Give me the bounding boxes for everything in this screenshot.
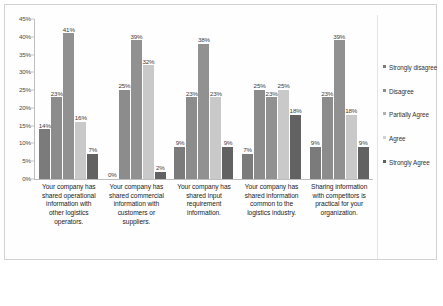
legend-label: Partially Agree — [389, 110, 429, 119]
legend-label: Disagree — [389, 87, 414, 96]
bar-value-label: 23% — [210, 91, 222, 97]
bar[interactable]: 7% — [242, 154, 253, 179]
x-axis-line — [34, 179, 373, 180]
bar-group: 7%25%23%25%18% — [238, 19, 306, 179]
bar-value-label: 23% — [321, 91, 333, 97]
bar[interactable]: 25% — [119, 90, 130, 179]
bar[interactable]: 25% — [254, 90, 265, 179]
legend-swatch-icon — [383, 65, 386, 68]
legend-label: Agree — [389, 134, 406, 143]
legend-divider — [377, 15, 378, 259]
bar-value-label: 23% — [186, 91, 198, 97]
bar[interactable]: 39% — [131, 40, 142, 179]
y-axis-tick-label: 0% — [22, 176, 31, 182]
bar-value-label: 25% — [278, 83, 290, 89]
y-axis-tick-label: 15% — [19, 123, 31, 129]
bar-value-label: 38% — [198, 37, 210, 43]
bar-value-label: 7% — [243, 147, 252, 153]
y-axis-tick-mark — [31, 107, 34, 108]
y-axis-tick-mark — [31, 125, 34, 126]
y-axis-tick-label: 10% — [19, 140, 31, 146]
bar[interactable]: 9% — [310, 147, 321, 179]
bar-group: 9%23%39%18%9% — [305, 19, 373, 179]
legend-swatch-icon — [383, 112, 386, 115]
bar-groups: 14%23%41%16%7%0%25%39%32%2%9%23%38%23%9%… — [35, 19, 373, 179]
y-axis-tick-label: 30% — [19, 69, 31, 75]
y-axis-tick-label: 20% — [19, 105, 31, 111]
bar-value-label: 14% — [39, 123, 51, 129]
bar-value-label: 25% — [254, 83, 266, 89]
bar-value-label: 39% — [333, 34, 345, 40]
y-axis-tick-mark — [31, 90, 34, 91]
legend-item[interactable]: Strongly Agree — [383, 158, 439, 167]
x-axis-category-labels: Your company has shared operational info… — [35, 183, 373, 227]
bar-value-label: 18% — [290, 108, 302, 114]
bar-value-label: 39% — [130, 34, 142, 40]
bar-value-label: 9% — [311, 140, 320, 146]
bar-value-label: 7% — [88, 147, 97, 153]
legend-item[interactable]: Disagree — [383, 87, 439, 96]
y-axis-tick-label: 25% — [19, 87, 31, 93]
legend-item[interactable]: Partially Agree — [383, 110, 439, 119]
chart-legend: Strongly disagreeDisagreePartially Agree… — [383, 63, 439, 181]
y-axis-tick-label: 45% — [19, 16, 31, 22]
bar-value-label: 23% — [266, 91, 278, 97]
y-axis-tick-mark — [31, 143, 34, 144]
bar-value-label: 16% — [75, 115, 87, 121]
legend-swatch-icon — [383, 89, 386, 92]
bar[interactable]: 9% — [358, 147, 369, 179]
bar[interactable]: 23% — [186, 97, 197, 179]
legend-label: Strongly Agree — [389, 158, 430, 167]
y-axis-tick-mark — [31, 161, 34, 162]
bar-group: 14%23%41%16%7% — [35, 19, 103, 179]
bar[interactable]: 14% — [39, 129, 50, 179]
bar[interactable]: 38% — [198, 44, 209, 179]
legend-item[interactable]: Agree — [383, 134, 439, 143]
bar[interactable]: 18% — [290, 115, 301, 179]
bar-value-label: 18% — [345, 108, 357, 114]
y-axis-tick-mark — [31, 19, 34, 20]
bar[interactable]: 23% — [51, 97, 62, 179]
bar[interactable]: 9% — [174, 147, 185, 179]
legend-swatch-icon — [383, 136, 386, 139]
bar[interactable]: 2% — [155, 172, 166, 179]
bar[interactable]: 7% — [87, 154, 98, 179]
bar[interactable]: 32% — [143, 65, 154, 179]
x-axis-category-label: Your company has shared information comm… — [238, 183, 306, 227]
bar-value-label: 32% — [142, 59, 154, 65]
y-axis-tick-label: 40% — [19, 34, 31, 40]
x-axis-category-label: Your company has shared input requiremen… — [170, 183, 238, 227]
y-axis-tick-mark — [31, 179, 34, 180]
bar-value-label: 25% — [118, 83, 130, 89]
y-axis-tick-mark — [31, 72, 34, 73]
y-axis-tick-label: 5% — [22, 158, 31, 164]
bar[interactable]: 9% — [222, 147, 233, 179]
legend-item[interactable]: Strongly disagree — [383, 63, 439, 72]
bar-value-label: 9% — [224, 140, 233, 146]
bar-value-label: 41% — [63, 27, 75, 33]
bar-group: 0%25%39%32%2% — [103, 19, 171, 179]
x-axis-category-label: Sharing information with competitors is … — [305, 183, 373, 227]
bar[interactable]: 41% — [63, 33, 74, 179]
bar[interactable]: 23% — [322, 97, 333, 179]
bar-group: 9%23%38%23%9% — [170, 19, 238, 179]
x-axis-category-label: Your company has shared operational info… — [35, 183, 103, 227]
legend-label: Strongly disagree — [389, 63, 437, 72]
y-axis-tick-label: 35% — [19, 51, 31, 57]
bar-value-label: 23% — [51, 91, 63, 97]
bar[interactable]: 23% — [266, 97, 277, 179]
bar-value-label: 2% — [156, 165, 165, 171]
bar-value-label: 9% — [359, 140, 368, 146]
chart-frame: 0%5%10%15%20%25%30%35%40%45% 14%23%41%16… — [4, 4, 437, 260]
bar[interactable]: 25% — [278, 90, 289, 179]
y-axis: 0%5%10%15%20%25%30%35%40%45% — [5, 19, 33, 179]
bar[interactable]: 23% — [210, 97, 221, 179]
chart-screenshot: 0%5%10%15%20%25%30%35%40%45% 14%23%41%16… — [0, 0, 443, 306]
bar[interactable]: 18% — [346, 115, 357, 179]
y-axis-tick-mark — [31, 36, 34, 37]
x-axis-category-label: Your company has shared commercial infor… — [103, 183, 171, 227]
legend-swatch-icon — [383, 160, 386, 163]
bar[interactable]: 16% — [75, 122, 86, 179]
bar-value-label: 9% — [176, 140, 185, 146]
bar[interactable]: 39% — [334, 40, 345, 179]
